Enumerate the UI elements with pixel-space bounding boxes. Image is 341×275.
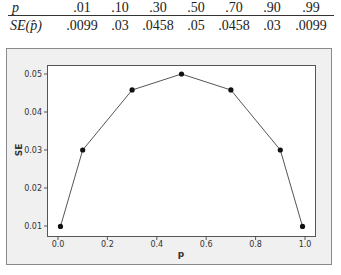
plot-area	[48, 66, 316, 237]
x-tick-label: 0.2	[101, 240, 114, 249]
data-point	[228, 87, 233, 92]
y-tick-label: 0.05	[24, 70, 42, 79]
x-tick-label: 1.0	[299, 240, 312, 249]
data-point	[300, 224, 305, 229]
data-point	[179, 71, 184, 76]
x-tick-label: 0.0	[52, 240, 65, 249]
data-point	[130, 87, 135, 92]
data-point	[80, 147, 85, 152]
x-tick-label: 0.6	[200, 240, 213, 249]
x-tick-label: 0.8	[249, 240, 262, 249]
chart-svg: 0.010.020.030.040.05 0.00.20.40.60.81.0 …	[0, 0, 341, 275]
x-tick-label: 0.4	[150, 240, 163, 249]
data-point	[278, 147, 283, 152]
y-tick-label: 0.03	[24, 146, 42, 155]
y-tick-label: 0.01	[24, 222, 42, 231]
se-chart: 0.010.020.030.040.05 0.00.20.40.60.81.0 …	[0, 0, 341, 275]
y-tick-label: 0.04	[24, 108, 42, 117]
x-axis-label: p	[178, 249, 185, 259]
data-point	[58, 224, 63, 229]
y-axis-label: SE	[14, 144, 24, 157]
y-tick-label: 0.02	[24, 184, 42, 193]
